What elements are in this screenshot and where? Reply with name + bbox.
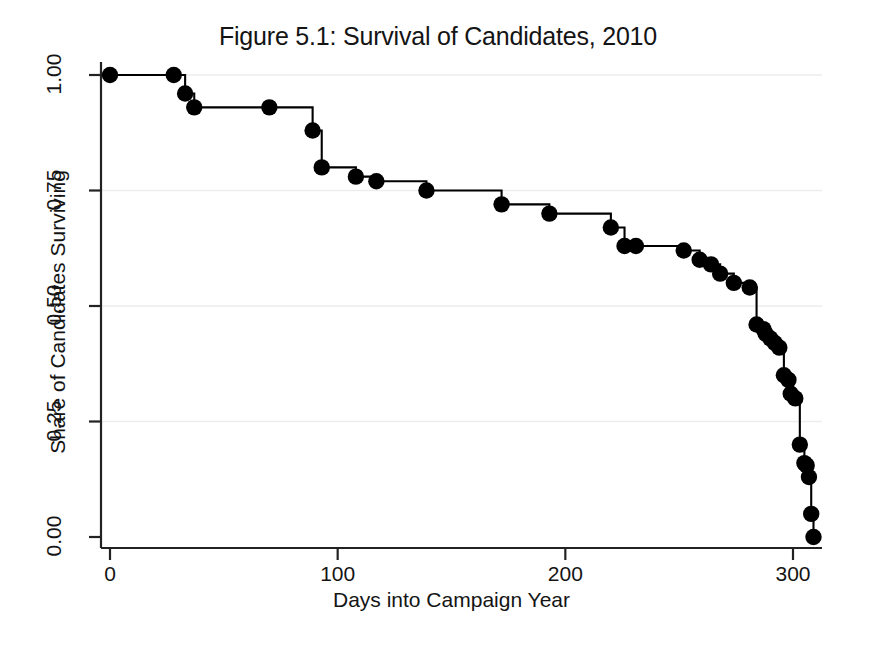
- y-axis-ticks: [89, 75, 101, 537]
- y-axis-tick-label: 0.75: [42, 155, 66, 225]
- axis-lines: [101, 62, 822, 548]
- data-point-marker: [726, 275, 742, 291]
- figure-container: Figure 5.1: Survival of Candidates, 2010…: [0, 0, 876, 646]
- data-point-marker: [418, 182, 434, 198]
- x-axis-tick-label: 0: [75, 562, 145, 586]
- data-point-marker: [801, 469, 817, 485]
- data-point-marker: [603, 219, 619, 235]
- x-axis-tick-label: 200: [530, 562, 600, 586]
- data-point-marker: [803, 506, 819, 522]
- x-axis-tick-label: 100: [303, 562, 373, 586]
- y-axis-tick-label: 0.50: [42, 270, 66, 340]
- data-point-marker: [348, 168, 364, 184]
- data-point-marker: [102, 67, 118, 83]
- data-point-marker: [742, 279, 758, 295]
- data-point-marker: [541, 205, 557, 221]
- data-point-marker: [805, 529, 821, 545]
- data-point-marker: [676, 242, 692, 258]
- data-point-marker: [712, 265, 728, 281]
- y-axis-tick-label: 1.00: [42, 39, 66, 109]
- data-point-marker: [792, 436, 808, 452]
- data-point-marker: [780, 372, 796, 388]
- y-axis-tick-label: 0.25: [42, 386, 66, 456]
- survival-curve-svg: [0, 0, 876, 646]
- data-point-marker: [186, 99, 202, 115]
- x-axis-ticks: [110, 548, 793, 560]
- plot-area: [0, 0, 876, 646]
- data-point-marker: [787, 390, 803, 406]
- data-point-marker: [166, 67, 182, 83]
- data-point-marker: [368, 173, 384, 189]
- data-point-marker: [493, 196, 509, 212]
- data-point-marker: [304, 122, 320, 138]
- data-point-marker: [628, 238, 644, 254]
- gridlines: [101, 75, 822, 422]
- data-point-marker: [177, 85, 193, 101]
- x-axis-tick-label: 300: [758, 562, 828, 586]
- data-point-marker: [771, 339, 787, 355]
- y-axis-tick-label: 0.00: [42, 501, 66, 571]
- data-point-marker: [261, 99, 277, 115]
- data-point-marker: [314, 159, 330, 175]
